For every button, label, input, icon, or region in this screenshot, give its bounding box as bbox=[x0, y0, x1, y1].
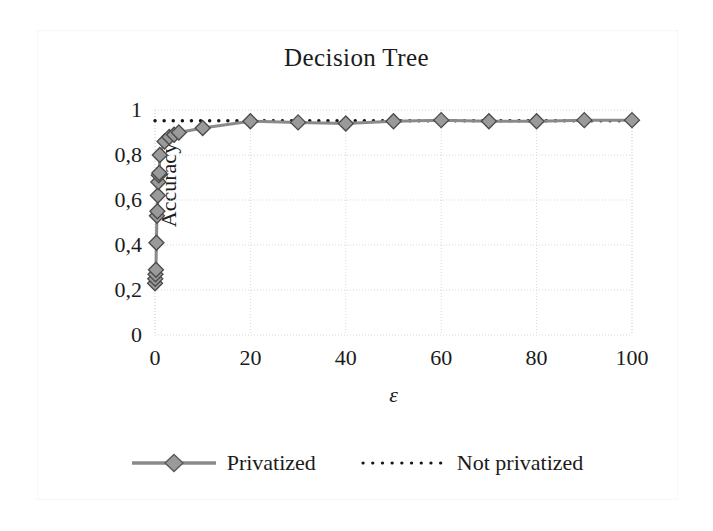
series-privatized-markers bbox=[148, 113, 640, 291]
x-axis-title: ε bbox=[155, 382, 632, 408]
plot-canvas bbox=[155, 110, 632, 335]
legend-label-not-privatized: Not privatized bbox=[457, 452, 583, 474]
y-tick-label-0: 0 bbox=[131, 324, 142, 346]
y-tick-label-0-8: 0,8 bbox=[115, 144, 143, 166]
y-tick-label-0-2: 0,2 bbox=[115, 279, 143, 301]
series-privatized bbox=[155, 120, 632, 283]
y-tick-label-0-4: 0,4 bbox=[115, 234, 143, 256]
plot-area: 1 0,8 0,6 0,4 0,2 0 0 20 40 60 80 100 Ac… bbox=[155, 110, 632, 335]
legend-label-privatized: Privatized bbox=[227, 452, 316, 474]
x-tick-label-80: 80 bbox=[526, 347, 548, 369]
legend-entry-not-privatized[interactable]: Not privatized bbox=[360, 452, 583, 474]
x-tick-label-40: 40 bbox=[335, 347, 357, 369]
x-tick-label-100: 100 bbox=[616, 347, 649, 369]
legend-entry-privatized[interactable]: Privatized bbox=[130, 452, 316, 474]
gridlines bbox=[155, 110, 632, 335]
chart-legend: Privatized Not privatized bbox=[0, 452, 713, 474]
chart-title: Decision Tree bbox=[0, 44, 713, 72]
x-tick-label-0: 0 bbox=[150, 347, 161, 369]
x-tick-label-60: 60 bbox=[430, 347, 452, 369]
legend-swatch-privatized-icon bbox=[130, 453, 218, 473]
y-tick-label-0-6: 0,6 bbox=[115, 189, 143, 211]
chart-figure: Decision Tree 1 0,8 0,6 0,4 0,2 0 0 20 4… bbox=[0, 0, 713, 531]
x-tick-label-20: 20 bbox=[239, 347, 261, 369]
y-tick-label-1: 1 bbox=[131, 99, 142, 121]
legend-swatch-not-privatized-icon bbox=[360, 453, 448, 473]
